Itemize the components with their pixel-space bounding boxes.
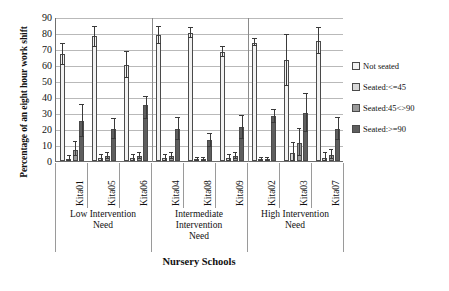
error-bar — [286, 35, 287, 86]
x-tick-separator — [119, 163, 120, 208]
x-tick-label: Kita06 — [139, 162, 149, 206]
y-tick-label: 10 — [42, 142, 52, 150]
x-tick-label: Kita07 — [331, 162, 341, 206]
bar-cluster — [60, 18, 84, 161]
error-bar-cap-bottom — [163, 160, 167, 161]
error-bar-cap-top — [227, 154, 231, 155]
legend-item: Seated:45<>90 — [352, 97, 448, 118]
error-bar-cap-top — [329, 149, 333, 150]
error-bar-cap-top — [163, 154, 167, 155]
group-label-line: Need — [247, 220, 343, 231]
x-tick-separator — [151, 163, 152, 208]
x-tick-label: Kita09 — [235, 162, 245, 206]
bar-cluster — [156, 18, 180, 161]
x-tick-separator — [87, 163, 88, 208]
bar-cluster — [188, 18, 212, 161]
bar-cluster — [220, 18, 244, 161]
group-label: Low InterventionNeed — [55, 209, 151, 231]
group-label-line: Need — [55, 220, 151, 231]
error-bar-cap-bottom — [92, 46, 96, 47]
legend-item: Seated:<=45 — [352, 76, 448, 97]
error-bar-cap-top — [169, 152, 173, 153]
error-bar-cap-top — [291, 142, 295, 143]
error-bar-cap-bottom — [291, 160, 295, 161]
error-bar-cap-bottom — [239, 138, 243, 139]
x-tick-label: Kita02 — [267, 162, 277, 206]
y-tick-label: 20 — [42, 126, 52, 134]
x-tick-label: Kita03 — [299, 162, 309, 206]
error-bar — [146, 97, 147, 119]
error-bar-cap-bottom — [271, 122, 275, 123]
error-bar-cap-top — [67, 155, 71, 156]
group-label-line: Intermediate — [151, 209, 247, 220]
x-tick-separator — [343, 163, 344, 208]
group-label-line: Need — [151, 231, 247, 242]
error-bar-cap-top — [111, 118, 115, 119]
error-bar-cap-top — [259, 157, 263, 158]
error-bar-cap-top — [175, 117, 179, 118]
y-tick-label: 40 — [42, 94, 52, 102]
error-bar — [82, 105, 83, 137]
bar-cluster — [124, 18, 148, 161]
bar — [156, 35, 161, 161]
error-bar-cap-top — [73, 141, 77, 142]
error-bar-cap-bottom — [60, 64, 64, 65]
error-bar-cap-top — [297, 128, 301, 129]
error-bar-cap-top — [335, 117, 339, 118]
error-bar — [242, 116, 243, 138]
error-bar-cap-top — [156, 26, 160, 27]
plot-group-separator — [152, 18, 153, 162]
error-bar-cap-top — [201, 157, 205, 158]
error-bar-cap-bottom — [137, 158, 141, 159]
x-tick-separator — [215, 163, 216, 208]
error-bar-cap-bottom — [284, 85, 288, 86]
error-bar — [75, 142, 76, 156]
error-bar-cap-bottom — [329, 158, 333, 159]
group-separator — [343, 208, 344, 252]
error-bar-cap-bottom — [73, 155, 77, 156]
group-separator — [151, 208, 152, 252]
bar — [188, 33, 193, 161]
bar-cluster — [284, 18, 308, 161]
error-bar — [338, 118, 339, 140]
error-bar-cap-top — [252, 38, 256, 39]
error-bar-cap-bottom — [201, 160, 205, 161]
error-bar-cap-top — [316, 27, 320, 28]
error-bar-cap-bottom — [131, 160, 135, 161]
bar — [271, 116, 276, 161]
y-tick-label: 70 — [42, 46, 52, 54]
error-bar-cap-top — [137, 152, 141, 153]
error-bar — [94, 27, 95, 48]
bar-cluster — [92, 18, 116, 161]
error-bar-cap-bottom — [99, 160, 103, 161]
error-bar-cap-bottom — [67, 160, 71, 161]
x-tick-label: Kita04 — [171, 162, 181, 206]
error-bar-cap-bottom — [323, 160, 327, 161]
group-label-line: High Intervention — [247, 209, 343, 220]
error-bar — [299, 129, 300, 156]
legend-label: Seated:45<>90 — [363, 103, 415, 113]
error-bar — [178, 118, 179, 140]
error-bar-cap-bottom — [169, 158, 173, 159]
error-bar-cap-top — [271, 109, 275, 110]
y-tick-label: 0 — [47, 158, 52, 166]
error-bar-cap-top — [265, 157, 269, 158]
error-bar-cap-top — [131, 154, 135, 155]
bar — [252, 43, 257, 161]
x-tick-separator — [311, 163, 312, 208]
error-bar-cap-bottom — [303, 131, 307, 132]
bar — [124, 65, 129, 161]
error-bar — [126, 52, 127, 78]
error-bar-cap-bottom — [195, 160, 199, 161]
bar — [60, 54, 65, 161]
error-bar-cap-bottom — [316, 53, 320, 54]
plot-group-separator — [248, 18, 249, 162]
error-bar-cap-bottom — [175, 139, 179, 140]
error-bar-cap-top — [239, 115, 243, 116]
error-bar — [306, 94, 307, 132]
error-bar — [158, 27, 159, 45]
error-bar-cap-bottom — [105, 158, 109, 159]
error-bar-cap-bottom — [335, 139, 339, 140]
y-tick-label: 90 — [42, 14, 52, 22]
legend-item: Seated:>=90 — [352, 118, 448, 139]
